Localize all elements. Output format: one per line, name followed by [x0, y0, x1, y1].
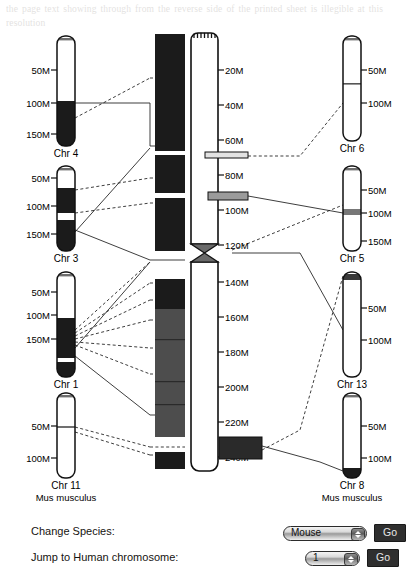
chromosome-left-chr3[interactable]: 50M 100M 150M Chr 3: [26, 166, 78, 264]
center-tick-4: 100M: [225, 205, 249, 216]
center-tick-8: 180M: [225, 347, 249, 358]
jump-control-group: 1 Go: [305, 549, 399, 567]
chr4-tick-0: 50M: [32, 65, 51, 76]
chr8-label: Chr 8: [340, 480, 365, 491]
center-band-column: [155, 34, 185, 469]
species-control-group: Mouse Go: [283, 524, 406, 542]
chr3-tick-2: 150M: [26, 229, 50, 240]
center-tick-marks: [218, 70, 224, 457]
species-select-value: Mouse: [291, 526, 321, 539]
chr11-tick-0: 50M: [32, 421, 51, 432]
center-tick-10: 220M: [225, 417, 249, 428]
chr1-tick-1: 100M: [26, 310, 50, 321]
species-go-button[interactable]: Go: [374, 524, 406, 542]
chr3-tick-0: 50M: [32, 173, 51, 184]
chr5-label: Chr 5: [340, 253, 365, 264]
center-tick-6: 140M: [225, 277, 249, 288]
chromosome-left-chr11[interactable]: 50M 100M Chr 11 Mus musculus: [26, 393, 96, 503]
telomere-hatch: [194, 33, 215, 38]
center-tick-labels: 20M 40M 60M 80M 100M 120M 140M 160M 180M…: [225, 65, 249, 463]
chromosome-map-figure: 20M 40M 60M 80M 100M 120M 140M 160M 180M…: [0, 0, 417, 568]
chr13-label: Chr 13: [337, 379, 367, 390]
chr1-label: Chr 1: [54, 379, 79, 390]
center-tick-5: 120M: [225, 240, 249, 251]
chr8-tick-1: 100M: [368, 453, 392, 464]
chromosome-left-chr4[interactable]: 50M 100M 150M Chr 4: [26, 36, 78, 159]
chr4-tick-2: 150M: [26, 129, 50, 140]
chr1-tick-2: 150M: [26, 334, 50, 345]
species-stepper-icon[interactable]: [351, 528, 365, 541]
center-tick-3: 80M: [225, 170, 244, 181]
chr3-tick-1: 100M: [26, 201, 50, 212]
chr6-tick-0: 50M: [368, 65, 387, 76]
center-tick-1: 40M: [225, 100, 244, 111]
center-chromosome[interactable]: [191, 33, 218, 471]
chr6-label: Chr 6: [340, 143, 365, 154]
chromosome-right-chr8[interactable]: 50M 100M Chr 8 Mus musculus: [322, 393, 392, 503]
change-species-label: Change Species:: [31, 525, 115, 537]
jump-go-button[interactable]: Go: [367, 549, 399, 567]
jump-stepper-icon[interactable]: [344, 553, 358, 566]
chromosome-left-chr1[interactable]: 50M 100M 150M Chr 1: [26, 272, 78, 390]
center-tick-0: 20M: [225, 65, 244, 76]
chr5-tick-1: 100M: [368, 208, 392, 219]
jump-to-human-chromosome-label: Jump to Human chromosome:: [31, 551, 178, 563]
left-species-label: Mus musculus: [36, 492, 97, 503]
chromosome-right-chr6[interactable]: 50M 100M Chr 6: [340, 36, 392, 154]
chr8-tick-0: 50M: [368, 421, 387, 432]
human-chromosome-select[interactable]: 1: [305, 551, 360, 566]
chr13-tick-1: 100M: [368, 335, 392, 346]
chr6-tick-1: 100M: [368, 98, 392, 109]
chr5-tick-0: 50M: [368, 185, 387, 196]
chr11-tick-1: 100M: [26, 453, 50, 464]
chr4-tick-1: 100M: [26, 98, 50, 109]
center-tick-9: 200M: [225, 382, 249, 393]
human-chromosome-value: 1: [313, 551, 319, 564]
chromosome-right-chr13[interactable]: 50M 100M Chr 13: [337, 272, 392, 390]
chromosome-right-chr5[interactable]: 50M 100M 150M Chr 5: [340, 166, 392, 264]
chr4-label: Chr 4: [54, 148, 79, 159]
right-species-label: Mus musculus: [322, 492, 383, 503]
chr5-tick-2: 150M: [368, 236, 392, 247]
chr13-tick-0: 50M: [368, 303, 387, 314]
figure-stage: 20M 40M 60M 80M 100M 120M 140M 160M 180M…: [0, 0, 417, 568]
species-select[interactable]: Mouse: [283, 526, 367, 541]
chr3-label: Chr 3: [54, 253, 79, 264]
center-tick-7: 160M: [225, 312, 249, 323]
center-tick-2: 60M: [225, 135, 244, 146]
chr1-tick-0: 50M: [32, 287, 51, 298]
chr11-label: Chr 11: [51, 480, 81, 491]
